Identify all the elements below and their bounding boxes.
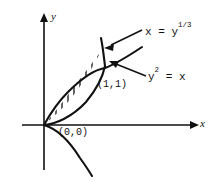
cube-root-leader-arrowhead (104, 44, 114, 51)
cube-root-curve (44, 38, 105, 176)
y-axis-label: y (51, 11, 56, 22)
intersection-point-label: (1,1) (97, 80, 127, 90)
cube-root-label-exponent: 1/3 (178, 21, 191, 29)
cube-root-leader-line (111, 30, 142, 45)
parabola-leader (109, 61, 146, 76)
origin-point-label: (0,0) (58, 128, 88, 138)
y-axis (40, 13, 48, 170)
cube-root-curve-label: x = y1/3 (145, 27, 191, 38)
y-axis-arrowhead (40, 13, 48, 22)
x-axis-arrowhead (190, 121, 199, 129)
parabola-label-exponent: 2 (155, 66, 159, 74)
cube-root-label-text: x = y (145, 26, 178, 38)
parabola-label-tail: = x (159, 71, 185, 83)
parabola-leader-line (116, 64, 146, 76)
x-axis-label: x (200, 118, 205, 129)
figure-container: y x x = y1/3 y2 = x (1,1) (0,0) (0, 0, 217, 182)
parabola-curve-label: y2 = x (148, 72, 186, 83)
parabola-curve (44, 47, 142, 125)
parabola-label-base: y (148, 71, 155, 83)
cube-root-leader (104, 30, 142, 51)
